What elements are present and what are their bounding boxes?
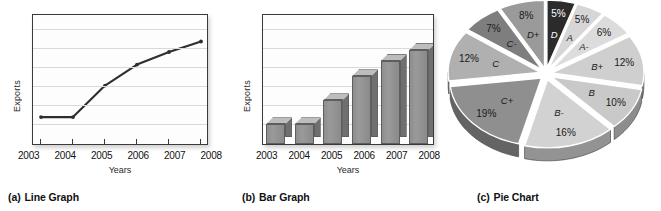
line-data-point (71, 115, 75, 119)
caption-title: Line Graph (25, 191, 79, 203)
caption-key: (b) (242, 191, 255, 203)
pie-slice-label-C-: C- (507, 38, 517, 49)
bar-2008 (409, 43, 434, 144)
line-data-point (135, 63, 139, 67)
bar-side-face (428, 43, 434, 137)
pie-slice-percent-A: 5% (575, 14, 590, 25)
three-chart-figure: Exports 2003 2004 2005 2006 (0, 0, 661, 211)
x-tick-label: 2004 (289, 150, 310, 161)
x-tick-label: 2006 (128, 150, 149, 161)
pie-slice-percent-C+: 19% (476, 108, 496, 119)
x-tick-label: 2005 (321, 150, 342, 161)
x-tick-label: 2003 (256, 150, 277, 161)
bar-front-face (409, 50, 428, 144)
pie-slice-label-A: A (565, 32, 572, 43)
gridline (33, 48, 207, 49)
pie-slice-percent-D+: 8% (519, 10, 534, 21)
caption-title: Bar Graph (259, 191, 309, 203)
pie-slice-label-B: B (588, 87, 595, 98)
x-tick-label: 2005 (91, 150, 112, 161)
pie-slice-percent-B+: 12% (614, 57, 634, 68)
line-graph-series (33, 15, 208, 145)
pie-slice-percent-C-: 7% (486, 23, 501, 34)
pie-slice-label-D+: D+ (527, 29, 540, 40)
panel-pie-chart: D5%A5%A-6%B+12%B10%B-16%C+19%C12%C-7%D+8… (435, 0, 661, 211)
bar-2003 (266, 117, 292, 144)
line-graph-plot-area (32, 14, 208, 145)
bar-graph-y-axis-title: Exports (242, 52, 252, 112)
gridline (33, 124, 207, 125)
bar-2005 (323, 93, 349, 144)
line-graph-x-ticks (32, 139, 208, 145)
line-data-point (167, 50, 171, 54)
pie-slice-percent-C: 12% (459, 53, 479, 64)
pie-slice-label-A-: A- (578, 41, 589, 52)
bar-graph-x-tick-labels: 2003 2004 2005 2006 2007 2008 (256, 150, 440, 161)
caption-bar-graph: (b)Bar Graph (242, 191, 310, 203)
bar-graph-plot-area (262, 14, 434, 145)
panel-line-graph: Exports 2003 2004 2005 2006 (0, 0, 220, 211)
bar-front-face (266, 124, 285, 144)
x-tick-label: 2006 (354, 150, 375, 161)
x-tick-label: 2004 (55, 150, 76, 161)
bar-2004 (295, 117, 321, 144)
line-graph-x-tick-labels: 2003 2004 2005 2006 2007 2008 (18, 150, 222, 161)
gridline (33, 105, 207, 106)
pie-slice-percent-D: 5% (551, 8, 566, 19)
caption-line-graph: (a)Line Graph (8, 191, 79, 203)
x-tick-label: 2007 (164, 150, 185, 161)
gridline (33, 29, 207, 30)
caption-title: Pie Chart (494, 191, 539, 203)
pie-slice-percent-B-: 16% (556, 127, 576, 138)
line-data-point (199, 40, 203, 44)
bar-2006 (352, 69, 378, 144)
x-tick-label: 2003 (18, 150, 39, 161)
bar-front-face (295, 124, 314, 144)
bar-graph-x-axis-title: Years (262, 165, 434, 175)
caption-pie-chart: (c)Pie Chart (477, 191, 539, 203)
bar-front-face (381, 61, 400, 144)
pie-chart-plot-area: D5%A5%A-6%B+12%B10%B-16%C+19%C12%C-7%D+8… (437, 2, 655, 162)
bar-front-face (323, 100, 342, 144)
caption-key: (c) (477, 191, 490, 203)
panel-bar-graph: Exports 2003 2004 2005 2006 2007 2008 Ye… (220, 0, 435, 211)
pie-slice-label-B-: B- (554, 107, 564, 118)
line-data-point (39, 115, 43, 119)
pie-slice-label-C+: C+ (501, 95, 514, 106)
line-graph-x-axis-title: Years (32, 165, 208, 175)
bar-front-face (352, 76, 371, 144)
bar-side-face (400, 54, 407, 137)
pie-slice-label-D: D (551, 29, 558, 40)
pie-slice-percent-A-: 6% (597, 27, 612, 38)
pie-slice-label-B+: B+ (591, 61, 603, 72)
gridline (33, 86, 207, 87)
gridline (33, 67, 207, 68)
x-tick-label: 2007 (386, 150, 407, 161)
pie-slice-label-C: C (492, 58, 499, 69)
bar-2007 (381, 54, 407, 144)
line-graph-y-axis-title: Exports (12, 52, 22, 112)
x-tick-label: 2008 (201, 150, 222, 161)
bar-side-face (342, 93, 349, 137)
pie-slice-percent-B: 10% (606, 97, 626, 108)
bar-side-face (371, 69, 378, 137)
caption-key: (a) (8, 191, 21, 203)
